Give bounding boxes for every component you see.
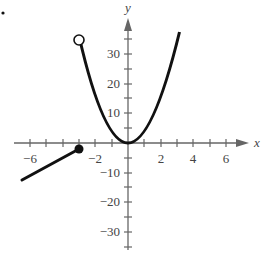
open-endpoint [74,35,84,45]
y-tick-label: 30 [107,46,120,61]
y-axis-label: y [123,0,131,15]
x-axis-label: x [253,135,260,150]
x-tick-label: 6 [223,151,230,166]
closed-endpoint [75,145,84,154]
y-tick-label: −30 [100,224,120,239]
x-tick-label: 4 [190,151,197,166]
figure-marker-dot [1,11,4,14]
y-tick-label: −20 [100,194,120,209]
y-tick-label: 20 [107,76,120,91]
x-axis-arrow-icon [236,139,249,147]
function-graph: x −6 −2 2 4 6 y 30 20 10 −10 [0,0,271,254]
x-tick-label: −6 [23,151,37,166]
x-tick-label: −2 [88,151,102,166]
y-axis: y 30 20 10 −10 −20 −30 [100,0,132,250]
quadratic-piece [79,32,180,143]
y-axis-arrow-icon [124,18,132,31]
y-tick-label: 10 [107,105,120,120]
x-tick-label: 2 [158,151,165,166]
y-tick-label: −10 [100,165,120,180]
